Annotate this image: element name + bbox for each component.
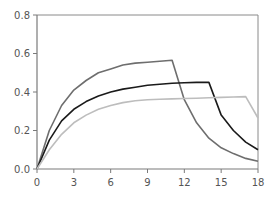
y-axis: 0.00.20.40.60.8 bbox=[14, 10, 37, 175]
x-tick-label: 6 bbox=[107, 177, 113, 188]
series-line-dark-gray bbox=[37, 60, 258, 169]
y-tick-label: 0.0 bbox=[14, 164, 30, 175]
x-tick-label: 12 bbox=[178, 177, 191, 188]
x-tick-label: 3 bbox=[71, 177, 77, 188]
series-line-light-gray bbox=[37, 97, 258, 169]
y-tick-label: 0.4 bbox=[14, 87, 30, 98]
plot-frame bbox=[37, 15, 258, 169]
x-tick-label: 9 bbox=[144, 177, 150, 188]
x-tick-label: 0 bbox=[34, 177, 40, 188]
x-tick-label: 18 bbox=[252, 177, 265, 188]
x-tick-label: 15 bbox=[215, 177, 228, 188]
x-axis: 0369121518 bbox=[34, 169, 265, 188]
series-lines bbox=[37, 60, 258, 169]
y-tick-label: 0.6 bbox=[14, 48, 30, 59]
line-chart: 0.00.20.40.60.8 0369121518 bbox=[0, 0, 275, 199]
y-tick-label: 0.2 bbox=[14, 125, 30, 136]
y-tick-label: 0.8 bbox=[14, 10, 30, 21]
